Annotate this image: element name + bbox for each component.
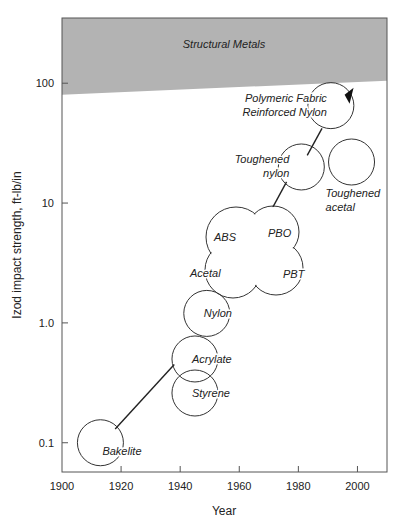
x-axis-title: Year (212, 504, 236, 518)
x-tick-label: 1920 (109, 480, 133, 492)
cluster-label: PBT (283, 268, 306, 280)
y-tick-label: 0.1 (39, 437, 54, 449)
material-label: Toughenedacetal (326, 187, 382, 213)
material-circle (329, 139, 375, 185)
material-circle (77, 420, 123, 466)
band-label: Structural Metals (183, 38, 266, 50)
arrowhead-icon (345, 88, 354, 104)
x-tick-label: 1900 (50, 480, 74, 492)
material-label: Styrene (192, 387, 230, 399)
y-tick-label: 100 (36, 77, 54, 89)
material-label: Polymeric FabricReinforced Nylon (242, 92, 327, 118)
x-tick-label: 1940 (168, 480, 192, 492)
cluster-label: ABS (213, 231, 237, 243)
y-axis-title: Izod impact strength, ft-lb/in (10, 171, 24, 318)
cluster-label: PBO (268, 227, 292, 239)
y-tick-label: 10 (42, 197, 54, 209)
x-tick-label: 2000 (345, 480, 369, 492)
x-tick-label: 1980 (286, 480, 310, 492)
chart: Structural Metals 1900192019401960198020… (0, 0, 407, 522)
material-label: Nylon (204, 307, 232, 319)
trend-line (115, 364, 174, 429)
material-label: Bakelite (102, 445, 141, 457)
x-tick-label: 1960 (227, 480, 251, 492)
material-label: Acrylate (191, 353, 232, 365)
cluster-label: Acetal (189, 267, 221, 279)
material-label: Toughenednylon (235, 153, 291, 179)
structural-metals-band (62, 18, 387, 95)
trend-line (307, 128, 322, 155)
y-tick-label: 1.0 (39, 317, 54, 329)
